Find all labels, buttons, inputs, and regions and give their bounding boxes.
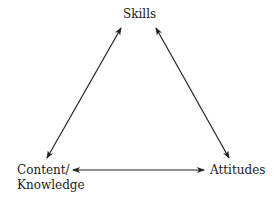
diagram-canvas: Skills Content/ Knowledge Attitudes: [0, 0, 273, 201]
node-skills-label: Skills: [123, 7, 156, 22]
edge-content-skills: [47, 28, 121, 158]
node-content-line2: Knowledge: [17, 178, 85, 193]
node-content-knowledge-label: Content/ Knowledge: [17, 163, 85, 193]
node-content-line1: Content/: [17, 163, 85, 178]
edge-skills-attitudes: [156, 28, 229, 158]
node-attitudes-label: Attitudes: [210, 163, 265, 178]
